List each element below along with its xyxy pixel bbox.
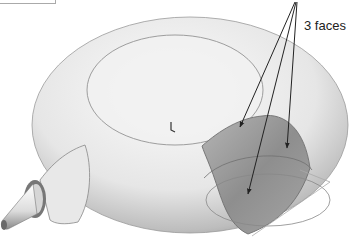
cad-diagram: 3 faces bbox=[0, 0, 353, 241]
torus-drawing bbox=[0, 0, 353, 241]
annotation-label: 3 faces bbox=[304, 18, 346, 33]
